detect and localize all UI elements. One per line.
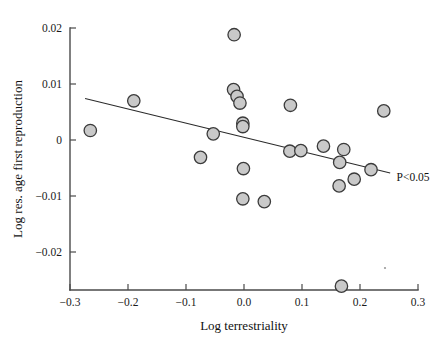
y-tick-label: −0.01: [35, 190, 62, 202]
data-point: [365, 163, 377, 175]
y-tick-label: −0.02: [35, 246, 62, 258]
data-point: [237, 162, 249, 174]
y-tick-label: 0.02: [42, 22, 62, 34]
x-tick-label: 0.1: [295, 296, 310, 308]
data-point: [228, 29, 240, 41]
p-value-label: P<0.05: [397, 171, 430, 183]
data-point: [295, 144, 307, 156]
stray-speck: [384, 267, 386, 269]
data-point: [338, 143, 350, 155]
data-points: [84, 29, 390, 293]
data-point: [317, 140, 329, 152]
data-point: [335, 280, 347, 292]
y-axis-title: Log res. age first reproduction: [10, 80, 25, 238]
data-point: [348, 173, 360, 185]
data-point: [194, 151, 206, 163]
significance-annotation: P<0.05: [397, 171, 430, 183]
x-axis-title: Log terrestriality: [200, 318, 288, 333]
data-point: [258, 195, 270, 207]
x-tick-label: −0.3: [60, 296, 81, 308]
x-tick-label: 0.2: [353, 296, 368, 308]
y-tick-label: 0: [56, 134, 62, 146]
data-point: [333, 180, 345, 192]
data-point: [237, 120, 249, 132]
data-point: [284, 99, 296, 111]
axes: [70, 28, 418, 290]
data-point: [128, 95, 140, 107]
data-point: [207, 128, 219, 140]
data-point: [237, 193, 249, 205]
y-tick-label: 0.01: [42, 78, 62, 90]
data-point: [334, 156, 346, 168]
x-tick-label: −0.1: [176, 296, 197, 308]
print-speck: [384, 267, 386, 269]
scatter-plot-figure: −0.3−0.2−0.10.00.10.20.3−0.02−0.0100.010…: [0, 0, 443, 347]
x-tick-label: −0.2: [118, 296, 139, 308]
plot-canvas: −0.3−0.2−0.10.00.10.20.3−0.02−0.0100.010…: [0, 0, 443, 347]
x-tick-label: 0.3: [411, 296, 426, 308]
data-point: [378, 105, 390, 117]
x-tick-label: 0.0: [237, 296, 252, 308]
data-point: [234, 97, 246, 109]
axis-labels: −0.3−0.2−0.10.00.10.20.3−0.02−0.0100.010…: [10, 22, 425, 333]
data-point: [84, 124, 96, 136]
